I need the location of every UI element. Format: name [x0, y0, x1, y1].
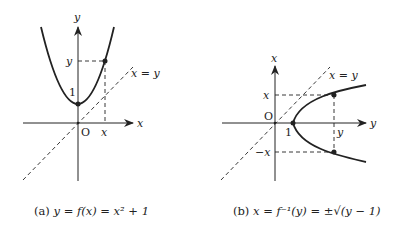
- caption-b-formula: x = f⁻¹(y) = ±√(y − 1): [253, 204, 380, 218]
- caption-a-formula: y = f(x) = x² + 1: [54, 204, 149, 218]
- curve-point: [103, 59, 108, 64]
- lower-point: [332, 150, 337, 155]
- vertex-point: [291, 121, 296, 126]
- vertex-point: [76, 102, 81, 107]
- point-pos-label: x: [263, 89, 270, 102]
- caption-a-prefix: (a): [34, 204, 50, 218]
- upper-point: [332, 93, 337, 98]
- axis-x-label: x: [137, 117, 144, 130]
- tick-one-label: 1: [69, 86, 76, 99]
- figure-canvas: x y O x y 1 x = y y x O 1 x −x y x = y: [0, 0, 398, 238]
- caption-a: (a) y = f(x) = x² + 1: [34, 204, 149, 218]
- axis-y-label: y: [73, 11, 81, 24]
- origin-point: [77, 122, 80, 125]
- point-y-label: y: [336, 126, 344, 139]
- diagonal-label: x = y: [329, 69, 358, 82]
- caption-b-prefix: (b): [233, 204, 249, 218]
- diagonal-label: x = y: [131, 67, 160, 80]
- caption-b: (b) x = f⁻¹(y) = ±√(y − 1): [233, 204, 380, 218]
- panel-a-graph: x y O x y 1 x = y: [23, 11, 160, 181]
- tick-one-label: 1: [285, 126, 292, 139]
- origin-point: [274, 122, 277, 125]
- origin-label: O: [264, 110, 273, 123]
- panel-b-graph: y x O 1 x −x y x = y: [221, 52, 377, 181]
- origin-label: O: [81, 126, 90, 139]
- axis-y-label: x: [271, 52, 278, 65]
- point-x-label: x: [101, 126, 108, 139]
- axis-x-label: y: [369, 117, 377, 130]
- point-y-label: y: [65, 55, 73, 68]
- point-neg-label: −x: [255, 146, 271, 159]
